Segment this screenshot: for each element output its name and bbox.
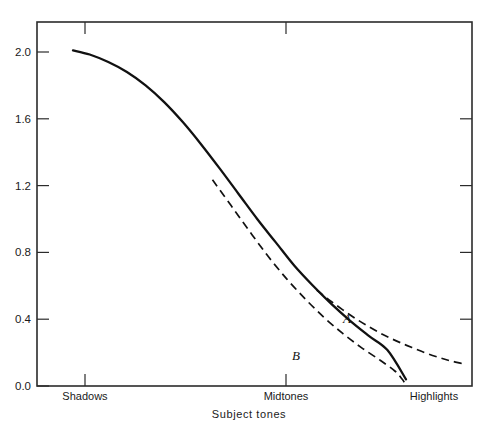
chart-background [0, 0, 489, 437]
chart-figure: 0.0 0.4 0.8 1.2 1.6 2.0 Shadows Midtones… [0, 0, 489, 437]
y-tick-label-2: 0.8 [15, 246, 31, 258]
x-axis-label: Subject tones [212, 408, 286, 420]
y-tick-label-3: 1.2 [15, 180, 31, 192]
y-tick-label-1: 0.4 [15, 313, 32, 325]
x-tick-label-midtones: Midtones [264, 390, 309, 402]
y-tick-label-5: 2.0 [15, 46, 31, 58]
curve-label-a: A [342, 311, 351, 326]
x-tick-label-shadows: Shadows [62, 390, 108, 402]
curve-label-b: B [292, 348, 300, 363]
y-tick-label-0: 0.0 [15, 380, 31, 392]
chart-svg: 0.0 0.4 0.8 1.2 1.6 2.0 Shadows Midtones… [0, 0, 489, 437]
x-tick-label-highlights: Highlights [410, 390, 459, 402]
y-tick-label-4: 1.6 [15, 113, 31, 125]
